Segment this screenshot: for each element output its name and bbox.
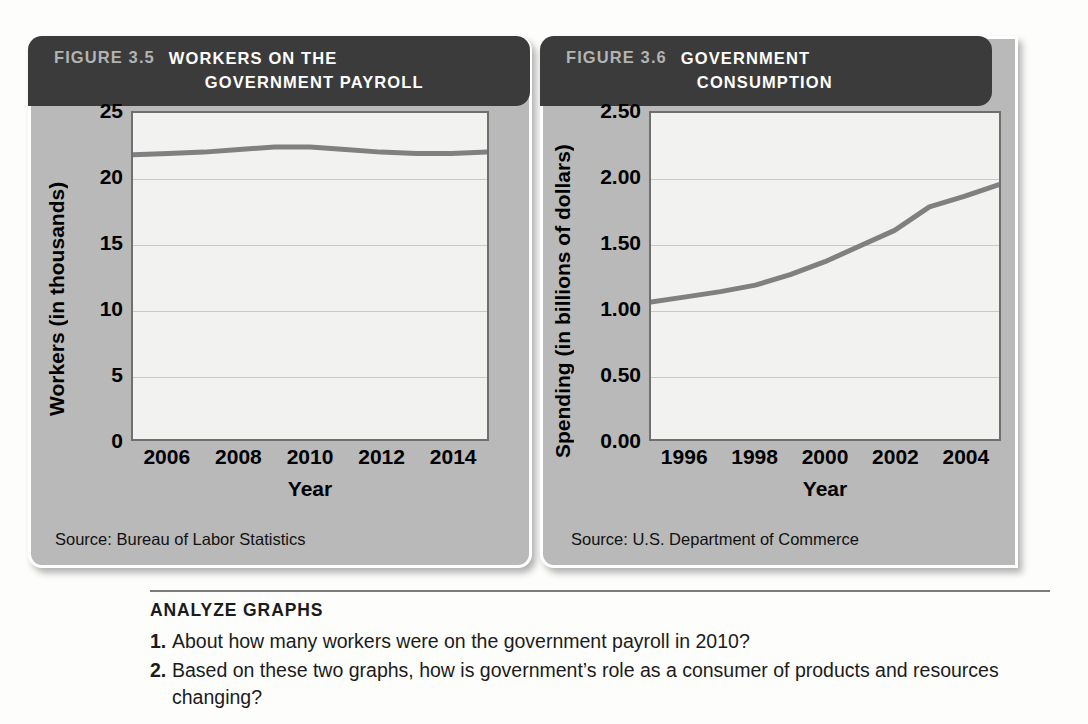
figure-3-6-number: FIGURE 3.6	[566, 47, 667, 67]
figure-3-6-ytick-200: 2.00	[567, 165, 641, 189]
analyze-question-1-text: About how many workers were on the gover…	[172, 628, 1050, 655]
figure-panel-3-5: FIGURE 3.5 WORKERS ON THE GOVERNMENT PAY…	[28, 36, 532, 568]
figure-3-6-plot-area	[649, 111, 1001, 441]
figure-3-6-xtick-2004: 2004	[931, 445, 1001, 469]
textbook-figure-page: FIGURE 3.5 WORKERS ON THE GOVERNMENT PAY…	[0, 0, 1088, 724]
analyze-graphs-heading: ANALYZE GRAPHS	[150, 600, 1050, 621]
figure-3-5-xtick-2012: 2012	[346, 445, 418, 469]
analyze-question-2-text: Based on these two graphs, how is govern…	[172, 657, 1050, 711]
figure-3-5-plot-area	[131, 111, 489, 441]
figure-3-5-title-line1: WORKERS ON THE	[169, 47, 424, 71]
figure-3-5-xtick-2010: 2010	[274, 445, 346, 469]
figure-3-6-x-axis-label: Year	[649, 477, 1001, 501]
figure-3-5-source: Source: Bureau of Labor Statistics	[55, 530, 305, 549]
analyze-question-1: 1. About how many workers were on the go…	[150, 628, 1050, 655]
figure-3-6-title: GOVERNMENT CONSUMPTION	[681, 47, 833, 95]
figure-3-5-xtick-2008: 2008	[203, 445, 275, 469]
figure-3-5-ytick-20: 20	[63, 165, 123, 189]
figure-3-6-ytick-100: 1.00	[567, 297, 641, 321]
figure-3-5-title: WORKERS ON THE GOVERNMENT PAYROLL	[169, 47, 424, 95]
figure-3-5-number: FIGURE 3.5	[54, 47, 155, 67]
figure-3-5-x-axis-label: Year	[131, 477, 489, 501]
figure-3-6-header: FIGURE 3.6 GOVERNMENT CONSUMPTION	[540, 36, 992, 106]
analyze-question-1-number: 1.	[150, 628, 172, 655]
figure-3-5-ytick-0: 0	[63, 429, 123, 453]
figure-3-6-ytick-000: 0.00	[567, 429, 641, 453]
figure-3-5-xtick-2014: 2014	[417, 445, 489, 469]
analyze-question-2: 2. Based on these two graphs, how is gov…	[150, 657, 1050, 711]
figure-3-6-series-line	[651, 113, 999, 439]
analyze-graphs-section: ANALYZE GRAPHS 1. About how many workers…	[150, 600, 1050, 713]
figure-panel-3-6: FIGURE 3.6 GOVERNMENT CONSUMPTION Spendi…	[540, 36, 1018, 568]
figure-3-5-series-line	[133, 113, 487, 439]
figure-3-6-xtick-2002: 2002	[860, 445, 930, 469]
figure-3-5-ytick-25: 25	[63, 99, 123, 123]
figure-3-6-ytick-150: 1.50	[567, 231, 641, 255]
section-divider	[150, 590, 1050, 592]
figure-3-6-chart: Spending (in billions of dollars) 2.50 2…	[543, 109, 1015, 565]
figure-3-5-header: FIGURE 3.5 WORKERS ON THE GOVERNMENT PAY…	[28, 36, 530, 106]
analyze-question-2-number: 2.	[150, 657, 172, 684]
figure-3-6-xtick-2000: 2000	[790, 445, 860, 469]
figure-3-5-chart: Workers (in thousands) 25 20 15 10 5 0 2…	[31, 109, 529, 565]
figure-3-6-ytick-250: 2.50	[567, 99, 641, 123]
figure-3-6-ytick-050: 0.50	[567, 363, 641, 387]
figure-3-5-title-line2: GOVERNMENT PAYROLL	[205, 71, 424, 95]
figure-3-5-ytick-15: 15	[63, 231, 123, 255]
figure-3-6-source: Source: U.S. Department of Commerce	[571, 530, 859, 549]
figure-3-6-title-line2: CONSUMPTION	[697, 71, 833, 95]
figure-3-6-x-axis-ticks: 1996 1998 2000 2002 2004	[649, 445, 1001, 469]
figure-3-6-title-line1: GOVERNMENT	[681, 47, 833, 71]
figure-3-5-xtick-2006: 2006	[131, 445, 203, 469]
figure-3-5-ytick-5: 5	[63, 363, 123, 387]
figure-3-6-xtick-1996: 1996	[649, 445, 719, 469]
figure-3-5-ytick-10: 10	[63, 297, 123, 321]
figure-3-6-xtick-1998: 1998	[719, 445, 789, 469]
figure-3-5-x-axis-ticks: 2006 2008 2010 2012 2014	[131, 445, 489, 469]
